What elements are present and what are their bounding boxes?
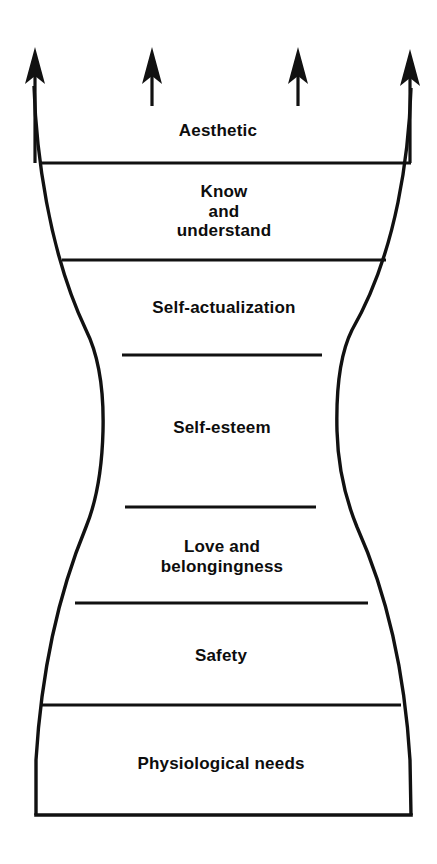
upward-arrows-group <box>25 47 420 163</box>
hierarchy-vector-canvas <box>0 0 437 864</box>
needs-hierarchy-diagram: Aesthetic Know and understand Self-actua… <box>0 0 437 864</box>
up-arrow-icon-inner-left <box>142 47 162 106</box>
tier-dividers <box>39 163 411 705</box>
up-arrow-icon-inner-right <box>288 47 308 106</box>
